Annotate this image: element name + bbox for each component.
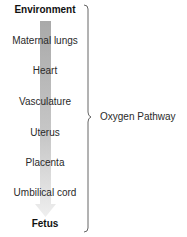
oxygen-pathway-diagram: Environment Maternal lungs Heart Vascula… [0,0,187,237]
oxygen-pathway-label: Oxygen Pathway [100,111,176,123]
